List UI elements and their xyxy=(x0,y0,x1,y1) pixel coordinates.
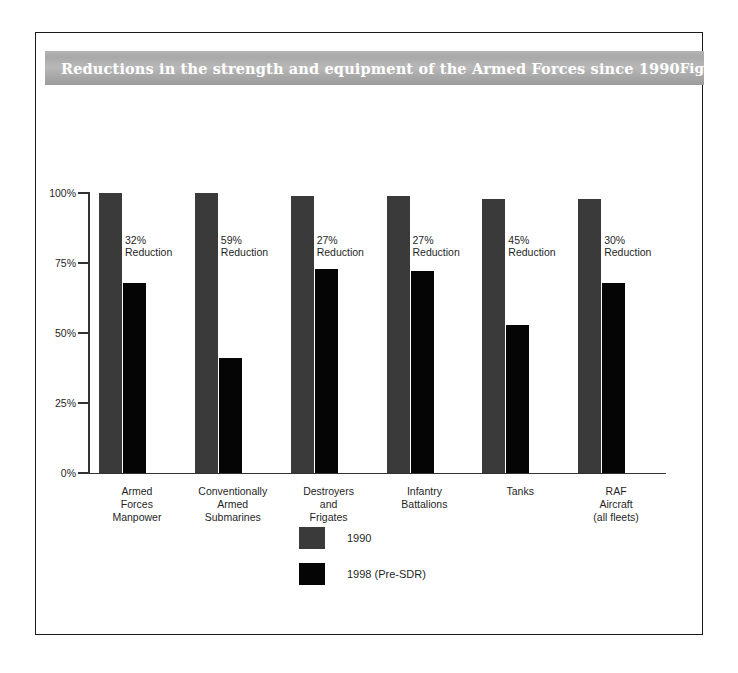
reduction-word: Reduction xyxy=(221,246,268,258)
reduction-annotation: 59%Reduction xyxy=(221,234,268,259)
category-label-line: and xyxy=(281,498,377,511)
category-label-line: Manpower xyxy=(89,511,185,524)
x-axis-category-label: InfantryBattalions xyxy=(377,485,473,511)
x-axis-category-label: ArmedForcesManpower xyxy=(89,485,185,523)
reduction-word: Reduction xyxy=(508,246,555,258)
legend-label: 1990 xyxy=(347,532,371,544)
y-axis-tick xyxy=(78,192,89,194)
category-label-line: Tanks xyxy=(472,485,568,498)
chart-legend: 19901998 (Pre-SDR) xyxy=(299,520,539,592)
reduction-percent: 45% xyxy=(508,234,555,246)
figure-title-band: Reductions in the strength and equipment… xyxy=(45,51,704,85)
bar-1990 xyxy=(291,196,314,473)
x-axis-category-label: Tanks xyxy=(472,485,568,498)
category-label-line: (all fleets) xyxy=(568,511,664,524)
reduction-word: Reduction xyxy=(604,246,651,258)
bar-1998 xyxy=(315,269,338,473)
reduction-annotation: 32%Reduction xyxy=(125,234,172,259)
category-label-line: Armed xyxy=(89,485,185,498)
bar-1990 xyxy=(99,193,122,473)
reduction-percent: 27% xyxy=(317,234,364,246)
category-label-line: Submarines xyxy=(185,511,281,524)
reduction-annotation: 27%Reduction xyxy=(413,234,460,259)
category-label-line: RAF xyxy=(568,485,664,498)
x-axis-category-label: ConventionallyArmedSubmarines xyxy=(185,485,281,523)
legend-label: 1998 (Pre-SDR) xyxy=(347,568,426,580)
y-axis-tick-label: 25% xyxy=(38,397,76,409)
reduction-word: Reduction xyxy=(317,246,364,258)
category-label-line: Destroyers xyxy=(281,485,377,498)
y-axis-tick xyxy=(78,402,89,404)
bar-1998 xyxy=(411,271,434,473)
legend-swatch xyxy=(299,527,325,549)
y-axis-tick xyxy=(78,262,89,264)
reduction-word: Reduction xyxy=(125,246,172,258)
reduction-percent: 30% xyxy=(604,234,651,246)
legend-entry: 1990 xyxy=(299,520,539,556)
chart-plot-region: 0%25%50%75%100% 32%Reduction59%Reduction… xyxy=(36,93,704,513)
bar-1990 xyxy=(482,199,505,473)
y-axis-tick-labels: 0%25%50%75%100% xyxy=(36,93,76,513)
reduction-percent: 27% xyxy=(413,234,460,246)
figure-number-label: Figure 1 xyxy=(680,60,738,76)
category-label-line: Battalions xyxy=(377,498,473,511)
y-axis-tick-label: 75% xyxy=(38,257,76,269)
reduction-word: Reduction xyxy=(413,246,460,258)
reduction-annotation: 30%Reduction xyxy=(604,234,651,259)
reduction-annotation: 27%Reduction xyxy=(317,234,364,259)
legend-swatch xyxy=(299,563,325,585)
legend-entry: 1998 (Pre-SDR) xyxy=(299,556,539,592)
y-axis-tick xyxy=(78,472,89,474)
category-label-line: Forces xyxy=(89,498,185,511)
bars-container: 32%Reduction59%Reduction27%Reduction27%R… xyxy=(89,193,664,473)
category-label-line: Aircraft xyxy=(568,498,664,511)
bar-1998 xyxy=(506,325,529,473)
category-label-line: Conventionally xyxy=(185,485,281,498)
x-axis-category-label: RAFAircraft(all fleets) xyxy=(568,485,664,523)
y-axis-tick-label: 0% xyxy=(38,467,76,479)
bar-1990 xyxy=(387,196,410,473)
reduction-percent: 59% xyxy=(221,234,268,246)
bar-1998 xyxy=(219,358,242,473)
reduction-percent: 32% xyxy=(125,234,172,246)
bar-1998 xyxy=(602,283,625,473)
category-label-line: Infantry xyxy=(377,485,473,498)
figure-title: Reductions in the strength and equipment… xyxy=(61,60,680,77)
y-axis-tick-label: 50% xyxy=(38,327,76,339)
figure-frame: Reductions in the strength and equipment… xyxy=(35,32,703,635)
bar-1990 xyxy=(578,199,601,473)
x-axis-category-label: DestroyersandFrigates xyxy=(281,485,377,523)
reduction-annotation: 45%Reduction xyxy=(508,234,555,259)
category-label-line: Armed xyxy=(185,498,281,511)
bar-1998 xyxy=(123,283,146,473)
bar-1990 xyxy=(195,193,218,473)
y-axis-tick-label: 100% xyxy=(38,187,76,199)
y-axis-tick xyxy=(78,332,89,334)
